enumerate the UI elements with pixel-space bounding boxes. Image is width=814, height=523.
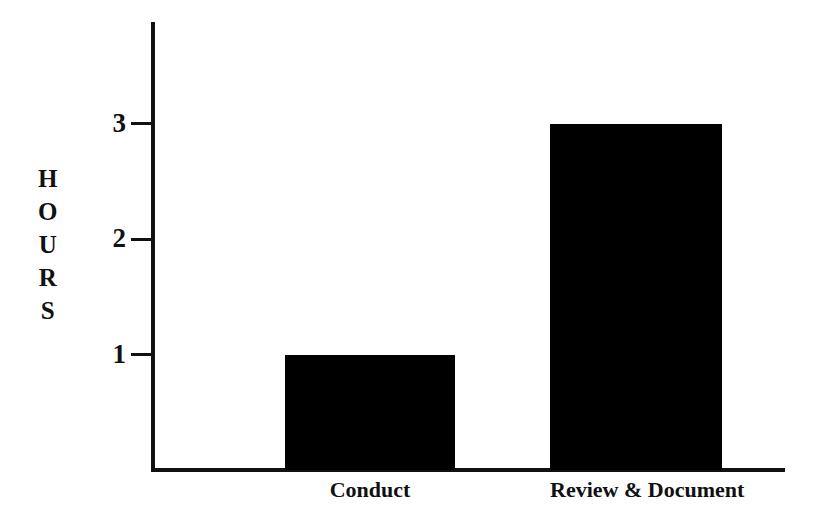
y-axis-tick-label: 3 bbox=[113, 110, 127, 137]
bar bbox=[285, 355, 455, 470]
y-axis-title-letter: U bbox=[39, 228, 58, 261]
y-axis-line bbox=[151, 22, 155, 472]
x-axis-category-label: Review & Document bbox=[550, 478, 722, 502]
y-axis-title-letter: S bbox=[41, 294, 55, 327]
y-axis-tick-label: 2 bbox=[113, 225, 127, 252]
y-axis-tick-label: 1 bbox=[113, 340, 127, 367]
y-axis-tick: 3 bbox=[131, 122, 153, 125]
bar bbox=[550, 124, 722, 470]
x-axis-category-label: Conduct bbox=[285, 478, 455, 502]
y-axis-tick: 2 bbox=[131, 238, 153, 241]
bar-chart: H O U R S 1 2 3 Conduct Review & Documen… bbox=[0, 0, 814, 523]
y-axis-title-letter: O bbox=[38, 195, 58, 228]
y-axis-title-letter: R bbox=[39, 261, 58, 294]
y-axis-title-letter: H bbox=[38, 162, 58, 195]
y-axis-tick: 1 bbox=[131, 353, 153, 356]
y-axis-title: H O U R S bbox=[26, 162, 70, 327]
